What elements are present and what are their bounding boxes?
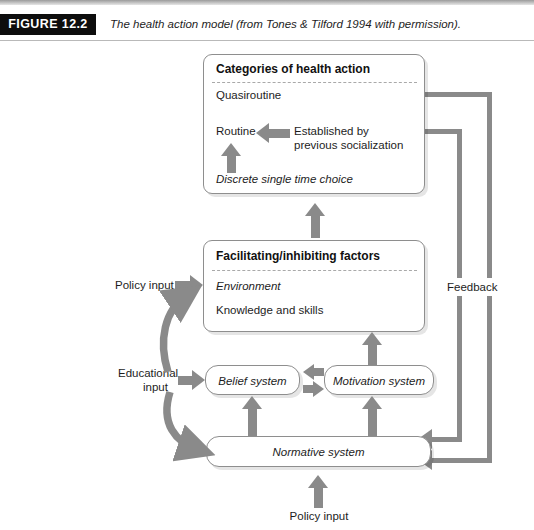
- routine-label: Routine: [216, 124, 256, 138]
- educational-input-line1: Educational: [118, 366, 178, 380]
- top-rule: [0, 0, 534, 5]
- normative-to-belief-arrow: [242, 396, 263, 436]
- motivation-to-belief-arrow: [303, 364, 324, 381]
- educational-input-to-belief-arrow: [178, 370, 205, 391]
- figure-root: FIGURE 12.2 The health action model (fro…: [0, 0, 534, 530]
- policy-input-bottom-label: Policy input: [278, 509, 360, 523]
- feedback-inner-horizontal-bottom: [432, 437, 462, 442]
- motivation-to-facilitating-arrow: [362, 332, 383, 368]
- feedback-outer-horizontal-bottom: [432, 458, 492, 463]
- figure-caption: The health action model (from Tones & Ti…: [110, 17, 510, 32]
- belief-system-label: Belief system: [205, 374, 300, 388]
- facilitating-to-categories-arrow: [305, 203, 326, 238]
- header-divider: [0, 40, 534, 41]
- established-to-routine-arrow: [256, 123, 290, 144]
- environment-label: Environment: [216, 279, 281, 293]
- discrete-to-routine-arrow: [221, 143, 242, 173]
- facilitating-box-divider: [212, 270, 417, 271]
- normative-to-motivation-arrow: [362, 396, 383, 436]
- feedback-inner-horizontal-top: [420, 129, 462, 134]
- policy-input-left-arrow: [175, 275, 203, 296]
- motivation-system-label: Motivation system: [324, 374, 434, 388]
- facilitating-box-title: Facilitating/inhibiting factors: [216, 249, 380, 263]
- established-by-line2: previous socialization: [294, 138, 403, 152]
- discrete-single-time-choice-label: Discrete single time choice: [216, 172, 353, 186]
- normative-system-label: Normative system: [206, 445, 431, 459]
- categories-box-title: Categories of health action: [216, 62, 370, 76]
- feedback-label: Feedback: [444, 278, 501, 296]
- established-by-line1: Established by: [294, 124, 369, 138]
- figure-number-tag: FIGURE 12.2: [0, 14, 96, 35]
- knowledge-and-skills-label: Knowledge and skills: [216, 303, 323, 317]
- educational-input-line2: input: [143, 380, 168, 394]
- categories-box-divider: [212, 82, 417, 83]
- policy-input-left-label: Policy input: [115, 278, 174, 292]
- figure-number-label: FIGURE 12.2: [0, 14, 96, 35]
- quasiroutine-label: Quasiroutine: [216, 88, 281, 102]
- belief-to-motivation-arrow: [303, 381, 324, 398]
- policy-input-bottom-arrow: [308, 475, 329, 508]
